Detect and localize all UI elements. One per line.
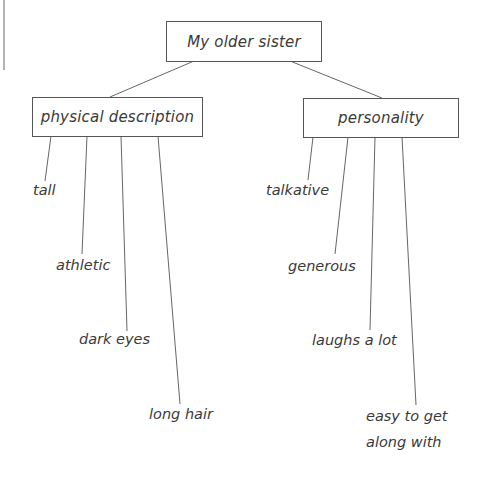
leaf-laughs-a-lot: laughs a lot	[312, 328, 397, 352]
leaf-tall: tall	[33, 178, 56, 202]
root-to-personality-line	[290, 61, 382, 98]
branch-label-physical: physical description	[41, 108, 195, 126]
line-easy-to-get-along	[402, 137, 416, 405]
line-talkative	[308, 137, 313, 180]
branch-label-personality: personality	[338, 109, 424, 127]
root-label: My older sister	[187, 33, 301, 51]
leaf-long-hair: long hair	[149, 402, 213, 426]
line-athletic	[82, 136, 87, 254]
line-tall	[45, 136, 51, 181]
branch-node-personality: personality	[303, 98, 459, 138]
leaf-athletic: athletic	[56, 253, 110, 277]
leaf-generous: generous	[288, 254, 356, 278]
leaf-dark-eyes: dark eyes	[79, 327, 150, 351]
leaf-talkative: talkative	[266, 178, 329, 202]
leaf-easy-to-get-along-line1: easy to get	[366, 404, 448, 428]
line-dark-eyes	[121, 136, 127, 331]
line-long-hair	[158, 136, 180, 404]
root-to-physical-line	[110, 61, 194, 97]
branch-node-physical-description: physical description	[32, 97, 203, 137]
root-node: My older sister	[166, 21, 322, 62]
line-laughs-a-lot	[370, 137, 375, 330]
mind-map-diagram: My older sister physical description per…	[0, 0, 481, 478]
line-generous	[335, 137, 348, 254]
leaf-easy-to-get-along-line2: along with	[366, 430, 442, 454]
